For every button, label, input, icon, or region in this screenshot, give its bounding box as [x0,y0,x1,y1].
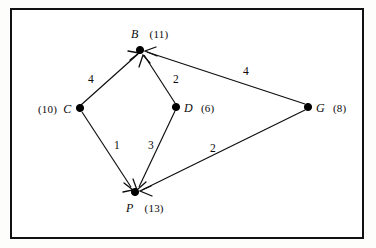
figure-page: B (11) (10) C D (6) G (8) P (13) 4 2 4 1… [0,0,376,248]
node-cost-b: (11) [150,28,169,40]
node-name-g: G [316,101,325,115]
edge-line-d-p [139,111,175,187]
node-cost-c: (10) [38,103,57,115]
node-cost-d: (6) [201,102,214,114]
node-dot-c[interactable] [76,104,83,111]
node-dot-b[interactable] [136,46,143,53]
graph-canvas [0,0,376,248]
node-dot-g[interactable] [304,103,311,110]
node-label-g: G (8) [316,102,346,115]
edge-weight-d-p: 3 [148,140,154,152]
edge-weight-c-b: 4 [88,74,94,86]
node-name-d: D [184,101,193,115]
node-label-d: D (6) [184,102,214,115]
node-label-b: B (11) [131,28,168,41]
arrowhead-d-b [139,55,150,67]
edge-weight-c-p: 1 [114,140,120,152]
node-label-c: (10) C [38,103,71,116]
node-dot-p[interactable] [131,188,138,195]
arrowhead-group [123,47,157,196]
edge-weight-d-b: 2 [173,74,179,86]
node-dot-d[interactable] [172,103,179,110]
node-dot-group [76,46,311,195]
node-name-b: B [131,27,139,41]
node-label-p: P (13) [126,202,164,215]
node-cost-p: (13) [145,202,164,214]
node-name-c: C [63,102,71,116]
edge-group [81,52,305,190]
node-name-p: P [126,201,134,215]
edge-weight-g-p: 2 [210,143,216,155]
edge-line-g-p [142,110,305,190]
edge-line-c-p [82,112,131,187]
arrowhead-g-b [145,47,157,56]
edge-weight-g-b: 4 [243,66,249,78]
node-cost-g: (8) [333,102,346,114]
